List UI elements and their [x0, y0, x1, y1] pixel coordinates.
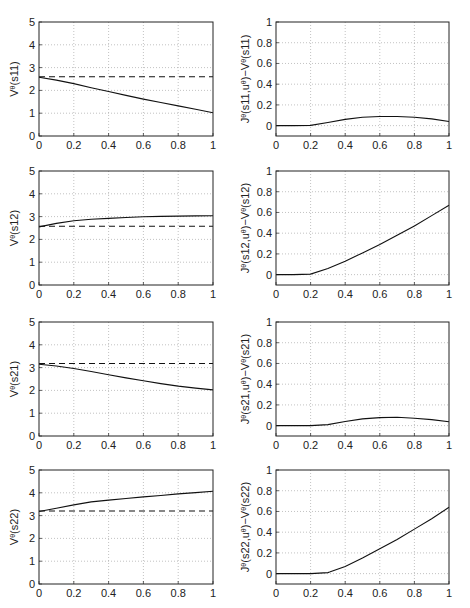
y-tick-label: 3: [29, 62, 35, 74]
x-tick-label: 1: [446, 439, 452, 451]
y-tick-label: 1: [29, 407, 35, 419]
x-tick-label: 0.8: [407, 439, 422, 451]
x-tick-label: 0.4: [101, 288, 116, 300]
x-tick-label: 0.6: [136, 139, 151, 151]
subplot-V_s21: 00.20.40.60.81012345Vθ(s21): [8, 316, 216, 451]
figure: 00.20.40.60.81012345Vθ(s11)00.20.40.60.8…: [0, 0, 470, 608]
y-tick-label: 0: [29, 578, 35, 590]
x-tick-label: 0.2: [66, 587, 81, 599]
subplot-J_s12: 00.20.40.60.8100.20.40.60.81Jθ(s12,uθ)−V…: [239, 165, 452, 300]
x-tick-label: 0: [273, 439, 279, 451]
x-tick-label: 0.2: [303, 139, 318, 151]
y-tick-label: 4: [29, 339, 35, 351]
x-tick-label: 1: [210, 139, 216, 151]
y-tick-label: 2: [29, 84, 35, 96]
y-tick-label: 4: [29, 39, 35, 51]
x-tick-label: 0.6: [136, 439, 151, 451]
x-tick-label: 0.2: [303, 288, 318, 300]
y-axis-label: Vθ(s12): [8, 210, 20, 246]
x-tick-label: 1: [446, 139, 452, 151]
x-tick-label: 0.6: [136, 587, 151, 599]
y-tick-label: 0.8: [257, 186, 272, 198]
plot-area: [276, 171, 449, 285]
y-axis-label: Jθ(s22,uθ)−Vθ(s22): [239, 482, 251, 572]
y-tick-label: 1: [266, 464, 272, 476]
y-tick-label: 5: [29, 16, 35, 28]
y-tick-label: 0.6: [257, 357, 272, 369]
y-tick-label: 0: [29, 279, 35, 291]
x-tick-label: 0.6: [372, 139, 387, 151]
x-tick-label: 0: [36, 139, 42, 151]
y-tick-label: 0.6: [257, 57, 272, 69]
subplot-V_s11: 00.20.40.60.81012345Vθ(s11): [8, 16, 216, 151]
y-tick-label: 5: [29, 316, 35, 328]
y-axis-label: Vθ(s22): [8, 509, 20, 545]
x-tick-label: 0.6: [372, 288, 387, 300]
x-tick-label: 0: [36, 288, 42, 300]
x-tick-label: 0.8: [171, 139, 186, 151]
x-tick-label: 0.4: [101, 439, 116, 451]
y-tick-label: 0.6: [257, 505, 272, 517]
y-tick-label: 0.8: [257, 37, 272, 49]
y-tick-label: 0.8: [257, 337, 272, 349]
x-tick-label: 0.2: [303, 587, 318, 599]
subplot-V_s12: 00.20.40.60.81012345Vθ(s12): [8, 165, 216, 300]
x-tick-label: 0: [36, 439, 42, 451]
y-tick-label: 0.2: [257, 99, 272, 111]
y-axis-label: Vθ(s11): [8, 61, 20, 97]
subplot-J_s11: 00.20.40.60.8100.20.40.60.81Jθ(s11,uθ)−V…: [239, 16, 452, 151]
x-tick-label: 0.6: [372, 439, 387, 451]
x-tick-label: 0.8: [407, 587, 422, 599]
x-tick-label: 0: [273, 139, 279, 151]
x-tick-label: 0: [273, 587, 279, 599]
y-tick-label: 4: [29, 487, 35, 499]
y-tick-label: 1: [266, 16, 272, 28]
y-tick-label: 0.4: [257, 378, 272, 390]
x-tick-label: 1: [446, 288, 452, 300]
plot-area: [39, 171, 213, 285]
subplot-J_s22: 00.20.40.60.8100.20.40.60.81Jθ(s22,uθ)−V…: [239, 464, 452, 599]
y-tick-label: 1: [266, 316, 272, 328]
y-tick-label: 0: [29, 130, 35, 142]
x-tick-label: 0: [36, 587, 42, 599]
x-tick-label: 0.8: [407, 139, 422, 151]
x-tick-label: 0.8: [171, 288, 186, 300]
x-tick-label: 0.2: [66, 439, 81, 451]
y-tick-label: 3: [29, 362, 35, 374]
y-axis-label: Jθ(s21,uθ)−Vθ(s21): [239, 334, 251, 424]
plot-area: [276, 22, 449, 136]
y-tick-label: 0.4: [257, 78, 272, 90]
y-tick-label: 0.6: [257, 206, 272, 218]
x-tick-label: 0.6: [372, 587, 387, 599]
x-tick-label: 1: [210, 288, 216, 300]
x-tick-label: 0.2: [66, 139, 81, 151]
y-tick-label: 5: [29, 165, 35, 177]
y-tick-label: 0.8: [257, 485, 272, 497]
y-tick-label: 2: [29, 532, 35, 544]
x-tick-label: 0.4: [338, 439, 353, 451]
x-tick-label: 0.4: [101, 139, 116, 151]
y-tick-label: 0.4: [257, 227, 272, 239]
x-tick-label: 1: [446, 587, 452, 599]
x-tick-label: 0.4: [338, 587, 353, 599]
figure-canvas: 00.20.40.60.81012345Vθ(s11)00.20.40.60.8…: [0, 0, 470, 608]
y-tick-label: 1: [266, 165, 272, 177]
x-tick-label: 0.8: [407, 288, 422, 300]
x-tick-label: 0.8: [171, 587, 186, 599]
y-tick-label: 1: [29, 256, 35, 268]
y-tick-label: 2: [29, 384, 35, 396]
x-tick-label: 1: [210, 439, 216, 451]
y-tick-label: 3: [29, 211, 35, 223]
y-tick-label: 5: [29, 464, 35, 476]
y-axis-label: Jθ(s12,uθ)−Vθ(s12): [239, 183, 251, 273]
x-tick-label: 0.4: [338, 288, 353, 300]
y-tick-label: 1: [29, 555, 35, 567]
subplot-J_s21: 00.20.40.60.8100.20.40.60.81Jθ(s21,uθ)−V…: [239, 316, 452, 451]
y-tick-label: 0.2: [257, 399, 272, 411]
y-tick-label: 3: [29, 510, 35, 522]
plot-area: [39, 322, 213, 436]
x-tick-label: 0.4: [101, 587, 116, 599]
y-tick-label: 2: [29, 233, 35, 245]
y-axis-label: Jθ(s11,uθ)−Vθ(s11): [239, 35, 251, 124]
y-axis-label: Vθ(s21): [8, 361, 20, 397]
